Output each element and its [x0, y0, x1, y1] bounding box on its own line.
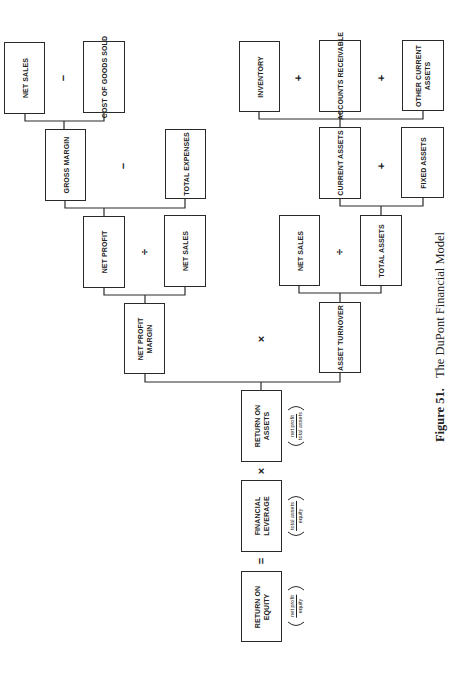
node-net-sales: NET SALES: [4, 42, 45, 114]
equals-operator: =: [256, 558, 267, 564]
node-label: RETURN ON ASSETS: [253, 405, 271, 448]
node-label: RETURN ON EQUITY: [253, 585, 271, 628]
multiply-operator: ×: [256, 468, 267, 474]
node-label: FINANCIAL LEVERAGE: [253, 496, 271, 535]
node-return-on-assets: RETURN ON ASSETS: [241, 390, 282, 462]
node-inventory: INVENTORY: [239, 41, 280, 112]
plus-operator: +: [293, 75, 304, 81]
node-total-assets: TOTAL ASSETS: [360, 215, 402, 286]
formula-numerator: net profit: [289, 594, 297, 617]
figure-caption: Figure 51.The DuPont Financial Model: [433, 232, 448, 442]
node-label: NET PROFIT: [100, 231, 109, 274]
formula-denominator: equity: [297, 599, 304, 614]
node-net-profit-margin: NET PROFIT MARGIN: [124, 303, 165, 374]
node-label: INVENTORY: [255, 56, 264, 97]
plus-operator: +: [376, 75, 387, 81]
formula-numerator: total assets: [289, 501, 297, 531]
connector-lines: [0, 0, 471, 674]
node-label: CURRENT ASSETS: [336, 130, 345, 195]
node-label: FIXED ASSETS: [418, 137, 427, 189]
divide-operator: ÷: [139, 249, 150, 255]
minus-operator: −: [58, 75, 69, 81]
multiply-operator: ×: [256, 336, 267, 342]
node-label: NET SALES: [181, 231, 190, 271]
minus-operator: −: [118, 163, 129, 169]
node-label: TOTAL ASSETS: [377, 224, 386, 277]
node-financial-leverage: FINANCIAL LEVERAGE: [241, 480, 282, 552]
node-fixed-assets: FIXED ASSETS: [401, 127, 444, 198]
figure-label: Figure 51.: [433, 388, 447, 442]
plus-operator: +: [376, 163, 387, 169]
node-total-expenses: TOTAL EXPENSES: [165, 129, 206, 199]
node-label: TOTAL EXPENSES: [181, 132, 190, 196]
formula-numerator: net profit: [289, 414, 297, 437]
roa-formula: net profit total assets: [285, 404, 307, 448]
node-label: ASSET TURNOVER: [336, 305, 345, 371]
node-cost-of-goods-sold: COST OF GOODS SOLD: [83, 41, 125, 113]
roe-formula: net profit equity: [285, 584, 307, 628]
node-current-assets: CURRENT ASSETS: [319, 127, 361, 199]
node-net-sales: NET SALES: [279, 215, 320, 286]
node-asset-turnover: ASSET TURNOVER: [319, 302, 361, 373]
node-label: ACCOUNTS RECEIVABLE: [336, 32, 345, 120]
node-accounts-receivable: ACCOUNTS RECEIVABLE: [319, 40, 361, 112]
node-label: GROSS MARGIN: [61, 137, 70, 194]
formula-denominator: total assets: [297, 412, 304, 440]
figure-title: The DuPont Financial Model: [433, 232, 447, 378]
node-label: OTHER CURRENT ASSETS: [414, 45, 432, 107]
node-label: COST OF GOODS SOLD: [100, 36, 109, 118]
node-other-current-assets: OTHER CURRENT ASSETS: [402, 40, 444, 111]
node-net-profit: NET PROFIT: [83, 216, 125, 288]
node-label: NET PROFIT MARGIN: [136, 317, 154, 360]
leverage-formula: total assets equity: [285, 494, 307, 538]
node-label: NET SALES: [295, 230, 304, 270]
node-return-on-equity: RETURN ON EQUITY: [241, 571, 282, 642]
divide-operator: ÷: [334, 249, 345, 255]
node-gross-margin: GROSS MARGIN: [45, 129, 86, 201]
node-label: NET SALES: [20, 58, 29, 98]
node-net-sales: NET SALES: [164, 215, 206, 287]
formula-denominator: equity: [297, 509, 304, 524]
